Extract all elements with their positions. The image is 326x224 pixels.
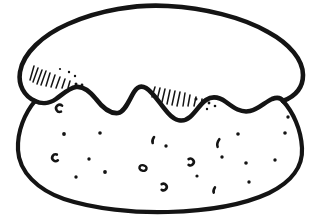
hatch-dot — [68, 71, 70, 73]
speckle-dot — [87, 157, 90, 160]
hatch-dot — [75, 83, 78, 86]
speckle-dot — [236, 132, 240, 136]
hatch-dot — [206, 108, 208, 110]
speckle-dot — [195, 174, 198, 177]
speckle-comma — [213, 187, 214, 192]
speckle-dot — [247, 180, 250, 183]
speckle-dot — [244, 161, 248, 165]
speckle-dot — [62, 132, 66, 136]
hatch-dot — [214, 105, 217, 108]
donut-drawing-svg — [0, 0, 326, 224]
speckle-dot — [74, 175, 77, 178]
speckle-dot — [98, 131, 102, 135]
speckle-dot — [286, 115, 289, 118]
hatch-dot — [202, 100, 205, 103]
speckle-dot — [273, 158, 276, 161]
hatch-dot — [208, 102, 211, 105]
hatch-dot — [195, 98, 198, 101]
speckle-dot — [220, 155, 223, 158]
hatch-dot — [59, 68, 61, 70]
hatch-dot — [74, 75, 76, 77]
speckle-dot — [164, 144, 167, 147]
hatch-dot — [81, 84, 84, 87]
speckle-dot — [103, 170, 107, 174]
speckle-dot — [283, 131, 287, 135]
donut-illustration-canvas: Iced Donut A black and white hand-drawn … — [0, 0, 326, 224]
hatch-dot — [213, 97, 215, 99]
